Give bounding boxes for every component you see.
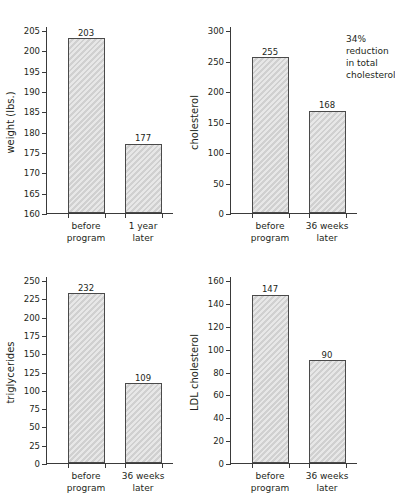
x-tick-mark <box>68 463 69 468</box>
y-tick-label: 175 <box>24 332 40 341</box>
bar-value-label: 255 <box>262 48 278 57</box>
x-category-label-line: later <box>122 483 165 495</box>
y-tick-label: 100 <box>208 149 224 158</box>
x-category-label-line: 1 year <box>129 221 158 233</box>
y-tick-mark <box>42 391 47 392</box>
y-tick-label: 75 <box>29 405 40 414</box>
x-tick-mark <box>252 463 253 468</box>
bar: 109 <box>125 383 162 463</box>
y-tick-label: 165 <box>24 189 40 198</box>
y-tick-label: 150 <box>208 118 224 127</box>
y-axis-line <box>46 27 47 214</box>
x-tick-mark <box>68 213 69 218</box>
y-tick-label: 0 <box>219 210 224 219</box>
plot-area-triglycerides: 0255075100125150175200225250232beforepro… <box>46 281 172 464</box>
y-tick-mark <box>42 31 47 32</box>
x-category-label-line: later <box>129 233 158 245</box>
y-tick-mark <box>226 214 231 215</box>
chart-panel-weight: weight (lbs.)160165170175180185190195200… <box>0 0 184 250</box>
bar: 203 <box>68 38 105 213</box>
x-category-label-line: program <box>251 233 289 245</box>
chart-annotation: 34% reduction in total cholesterol <box>346 33 395 81</box>
y-tick-label: 160 <box>24 210 40 219</box>
y-tick-label: 205 <box>24 27 40 36</box>
y-tick-label: 225 <box>24 295 40 304</box>
y-tick-mark <box>42 133 47 134</box>
bar-value-label: 147 <box>262 285 278 294</box>
y-tick-label: 175 <box>24 149 40 158</box>
y-tick-mark <box>226 395 231 396</box>
x-tick-mark <box>346 213 347 218</box>
y-axis-title-label: triglycerides <box>6 281 16 464</box>
bar: 147 <box>252 295 289 463</box>
x-tick-mark <box>105 213 106 218</box>
y-tick-mark <box>42 51 47 52</box>
chart-panel-triglycerides: triglycerides025507510012515017520022525… <box>0 250 184 500</box>
y-tick-mark <box>226 153 231 154</box>
x-tick-mark <box>289 213 290 218</box>
y-tick-mark <box>226 464 231 465</box>
bar: 255 <box>252 57 289 213</box>
y-tick-label: 0 <box>35 460 40 469</box>
y-tick-mark <box>42 373 47 374</box>
y-axis-title-ldl-cholesterol: LDL cholesterol <box>190 281 204 464</box>
plot-area-weight: 160165170175180185190195200205203beforep… <box>46 31 172 214</box>
x-axis-line <box>230 463 357 464</box>
y-tick-mark <box>42 299 47 300</box>
x-tick-mark <box>125 213 126 218</box>
y-tick-mark <box>42 92 47 93</box>
x-category-label: 36 weekslater <box>306 471 349 494</box>
y-tick-label: 0 <box>219 460 224 469</box>
y-tick-mark <box>226 31 231 32</box>
y-tick-label: 80 <box>213 368 224 377</box>
y-tick-label: 200 <box>24 47 40 56</box>
x-category-label-line: before <box>67 221 105 233</box>
y-tick-label: 250 <box>24 277 40 286</box>
y-tick-label: 100 <box>24 387 40 396</box>
chart-panel-ldl-cholesterol: LDL cholesterol020406080100120140160147b… <box>184 250 368 500</box>
y-tick-label: 20 <box>213 437 224 446</box>
bar: 177 <box>125 144 162 213</box>
y-tick-mark <box>42 281 47 282</box>
y-axis-title-label: weight (lbs.) <box>6 31 16 214</box>
y-tick-label: 60 <box>213 391 224 400</box>
y-tick-label: 200 <box>208 88 224 97</box>
x-category-label-line: before <box>67 471 105 483</box>
bar-value-label: 90 <box>322 351 333 360</box>
bar-value-label: 232 <box>78 284 94 293</box>
y-axis-title-weight: weight (lbs.) <box>6 31 20 214</box>
y-tick-mark <box>42 336 47 337</box>
x-category-label: beforeprogram <box>251 471 289 494</box>
x-category-label: beforeprogram <box>67 221 105 244</box>
x-category-label-line: 36 weeks <box>306 471 349 483</box>
plot-area-ldl-cholesterol: 020406080100120140160147beforeprogram903… <box>230 281 356 464</box>
x-tick-mark <box>252 213 253 218</box>
x-category-label-line: program <box>67 233 105 245</box>
y-tick-mark <box>226 123 231 124</box>
x-category-label-line: program <box>251 483 289 495</box>
y-tick-mark <box>42 427 47 428</box>
y-tick-label: 200 <box>24 313 40 322</box>
plot-area-cholesterol: 050100150200250300255beforeprogram16836 … <box>230 31 356 214</box>
y-tick-mark <box>42 112 47 113</box>
bar-value-label: 109 <box>135 374 151 383</box>
y-tick-mark <box>42 173 47 174</box>
y-tick-label: 25 <box>29 441 40 450</box>
y-tick-mark <box>226 62 231 63</box>
x-tick-mark <box>309 463 310 468</box>
x-category-label-line: before <box>251 221 289 233</box>
x-category-label-line: program <box>67 483 105 495</box>
y-tick-label: 40 <box>213 414 224 423</box>
y-tick-mark <box>226 350 231 351</box>
y-tick-mark <box>226 373 231 374</box>
x-category-label-line: later <box>306 483 349 495</box>
y-tick-label: 185 <box>24 108 40 117</box>
y-tick-mark <box>226 92 231 93</box>
y-tick-label: 250 <box>208 57 224 66</box>
y-tick-label: 50 <box>29 423 40 432</box>
y-tick-mark <box>226 441 231 442</box>
y-tick-mark <box>42 194 47 195</box>
y-tick-mark <box>42 153 47 154</box>
x-category-label-line: 36 weeks <box>306 221 349 233</box>
y-tick-mark <box>226 281 231 282</box>
